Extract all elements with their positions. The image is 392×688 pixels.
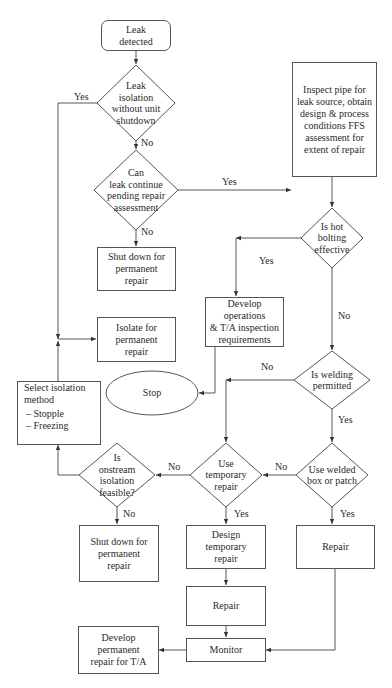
edge-label-isolation-no: No: [141, 137, 153, 148]
edge-label-hotbolting-yes: Yes: [259, 255, 274, 266]
edge-label-welding-yes: Yes: [338, 414, 353, 425]
edge-label-temp-yes: Yes: [234, 508, 249, 519]
edge-label-isolation-yes: Yes: [74, 91, 89, 102]
isolate-permanent-repair-node: Isolate for permanent repair: [97, 317, 176, 362]
node-line: Use: [205, 458, 246, 470]
node-line: Inspect pipe for: [297, 84, 372, 96]
flowchart-canvas: Leak detected Leak isolation without uni…: [0, 0, 392, 688]
node-line: Isolate for: [115, 322, 157, 334]
node-line: leak continue: [107, 179, 165, 191]
use-welded-box-decision: Use welded box or patch: [298, 463, 366, 487]
develop-permanent-repair-node: Develop permanent repair for T/A: [78, 626, 159, 674]
node-line: & T/A inspection: [206, 322, 283, 334]
node-line: assessment: [107, 202, 165, 214]
edge-label-welding-no: No: [261, 361, 273, 372]
node-line: isolation: [112, 92, 161, 104]
select-isolation-method-node: Select isolation method – Stopple – Free…: [17, 381, 101, 445]
node-line: temporary: [205, 469, 246, 481]
repair-node-right: Repair: [296, 525, 375, 569]
node-line: repair: [90, 560, 147, 572]
node-line: Repair: [322, 541, 349, 553]
welding-permitted-decision: Is welding permitted: [296, 368, 368, 392]
node-line: onstream: [99, 464, 136, 476]
node-line: repair: [108, 275, 165, 287]
inspect-pipe-node: Inspect pipe for leak source, obtain des…: [292, 62, 377, 177]
develop-operations-node: Develop operations & T/A inspection requ…: [205, 297, 284, 347]
can-leak-continue-decision: Can leak continue pending repair assessm…: [94, 163, 178, 217]
node-line: Repair: [213, 600, 240, 612]
edge-label-continue-yes: Yes: [222, 176, 237, 187]
node-line: assessment for: [297, 132, 372, 144]
leak-detected-node: Leak detected: [101, 20, 171, 51]
edge-label-continue-no: No: [141, 226, 153, 237]
node-line: Stop: [143, 387, 161, 399]
edge-label-welded-no: No: [275, 461, 287, 472]
edge-label-onstream-no-left: No: [168, 461, 180, 472]
node-line: repair: [205, 481, 246, 493]
edge-label-hotbolting-no: No: [338, 310, 350, 321]
node-line: repair for T/A: [91, 656, 147, 668]
onstream-isolation-decision: Is onstream isolation feasible?: [82, 450, 152, 500]
node-line: temporary: [205, 541, 246, 553]
node-line: permanent: [91, 644, 147, 656]
edge-label-onstream-no-down: No: [123, 508, 135, 519]
node-line: Shut down for: [108, 251, 165, 263]
node-line: Use welded: [307, 464, 357, 476]
monitor-node: Monitor: [186, 638, 266, 662]
node-line: shutdown: [112, 115, 161, 127]
list-item: – Stopple: [24, 408, 64, 420]
shut-down-permanent-repair-node: Shut down for permanent repair: [97, 247, 176, 291]
node-line: Leak: [119, 24, 152, 36]
node-line: feasible?: [99, 487, 136, 499]
repair-node-middle: Repair: [186, 586, 266, 626]
node-line: detected: [119, 36, 152, 48]
node-line: Can: [107, 167, 165, 179]
node-line: method: [24, 394, 54, 406]
node-line: pending repair: [107, 190, 165, 202]
node-line: Shut down for: [90, 536, 147, 548]
stop-node: Stop: [106, 383, 198, 403]
node-line: Select isolation: [24, 382, 85, 394]
node-line: Is welding: [311, 369, 353, 381]
node-line: Is hot: [315, 221, 350, 233]
node-line: Develop operations: [206, 298, 283, 322]
leak-isolation-decision: Leak isolation without unit shutdown: [98, 76, 174, 130]
node-line: permanent: [108, 263, 165, 275]
node-line: Design: [205, 529, 246, 541]
hot-bolting-decision: Is hot bolting effective: [302, 218, 362, 258]
node-line: bolting: [315, 232, 350, 244]
node-line: box or patch: [307, 475, 357, 487]
node-line: permitted: [311, 380, 353, 392]
node-line: leak source, obtain: [297, 96, 372, 108]
node-line: design & process: [297, 108, 372, 120]
design-temporary-repair-node: Design temporary repair: [186, 525, 266, 569]
node-line: repair: [205, 553, 246, 565]
node-line: isolation: [99, 475, 136, 487]
node-line: requirements: [206, 334, 283, 346]
list-item: – Freezing: [24, 420, 69, 432]
node-line: conditions FFS: [297, 120, 372, 132]
node-line: Leak: [112, 80, 161, 92]
node-line: Monitor: [210, 644, 243, 656]
node-line: Is: [99, 452, 136, 464]
node-line: permanent: [115, 334, 157, 346]
edge-label-welded-yes: Yes: [340, 508, 355, 519]
node-line: effective: [315, 244, 350, 256]
node-line: without unit: [112, 103, 161, 115]
node-line: permanent: [90, 548, 147, 560]
node-line: repair: [115, 346, 157, 358]
use-temporary-repair-decision: Use temporary repair: [192, 457, 260, 493]
node-line: extent of repair: [297, 144, 372, 156]
shut-down-permanent-repair-node-2: Shut down for permanent repair: [79, 525, 159, 582]
node-line: Develop: [91, 632, 147, 644]
